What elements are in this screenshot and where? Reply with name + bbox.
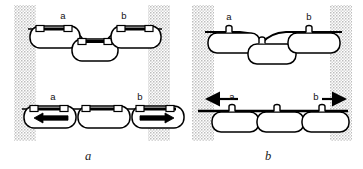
- figure-container: a b: [0, 0, 363, 169]
- panel-a-upper-label-b: b: [121, 10, 126, 21]
- panel-b-lower-label-a: a: [229, 91, 235, 102]
- panel-a-lower-cell-right: [132, 106, 184, 129]
- attachment-square: [136, 106, 144, 112]
- attachment-square: [60, 106, 68, 112]
- attachment-stalk: [229, 105, 235, 112]
- attachment-stalk: [274, 105, 280, 112]
- panel-a-caption: a: [85, 149, 91, 163]
- cell-body: [302, 112, 349, 132]
- attachment-square: [64, 26, 72, 32]
- panel-a-lower-label-b: b: [137, 91, 142, 102]
- panel-b-upper-label-b: b: [306, 11, 311, 22]
- figure-illustration: a b: [0, 0, 363, 169]
- attachment-square: [114, 106, 122, 112]
- panel-b-upper-label-a: a: [226, 11, 232, 22]
- panel-b-caption: b: [265, 149, 271, 163]
- panel-a-upper-label-a: a: [60, 10, 66, 21]
- cell-body: [288, 33, 340, 53]
- panel-a-lower-cell-left: [24, 106, 76, 129]
- cell-body: [212, 112, 259, 132]
- attachment-square: [30, 106, 38, 112]
- attachment-stalk: [319, 105, 325, 112]
- panel-b-left-boundary: [192, 5, 214, 141]
- panel-b-lower-label-b: b: [313, 91, 318, 102]
- attachment-square: [36, 26, 44, 32]
- attachment-square: [117, 26, 125, 32]
- attachment-square: [78, 39, 86, 45]
- attachment-square: [82, 106, 90, 112]
- attachment-square: [145, 26, 153, 32]
- panel-a-upper-cell-right: [111, 26, 161, 49]
- attachment-stalk: [259, 37, 265, 44]
- attachment-square: [166, 106, 174, 112]
- attachment-stalk: [226, 26, 232, 33]
- attachment-stalk: [306, 26, 312, 33]
- panel-a-lower-cell-middle: [78, 106, 130, 129]
- cell-body: [257, 112, 304, 132]
- panel-a-lower-label-a: a: [50, 91, 56, 102]
